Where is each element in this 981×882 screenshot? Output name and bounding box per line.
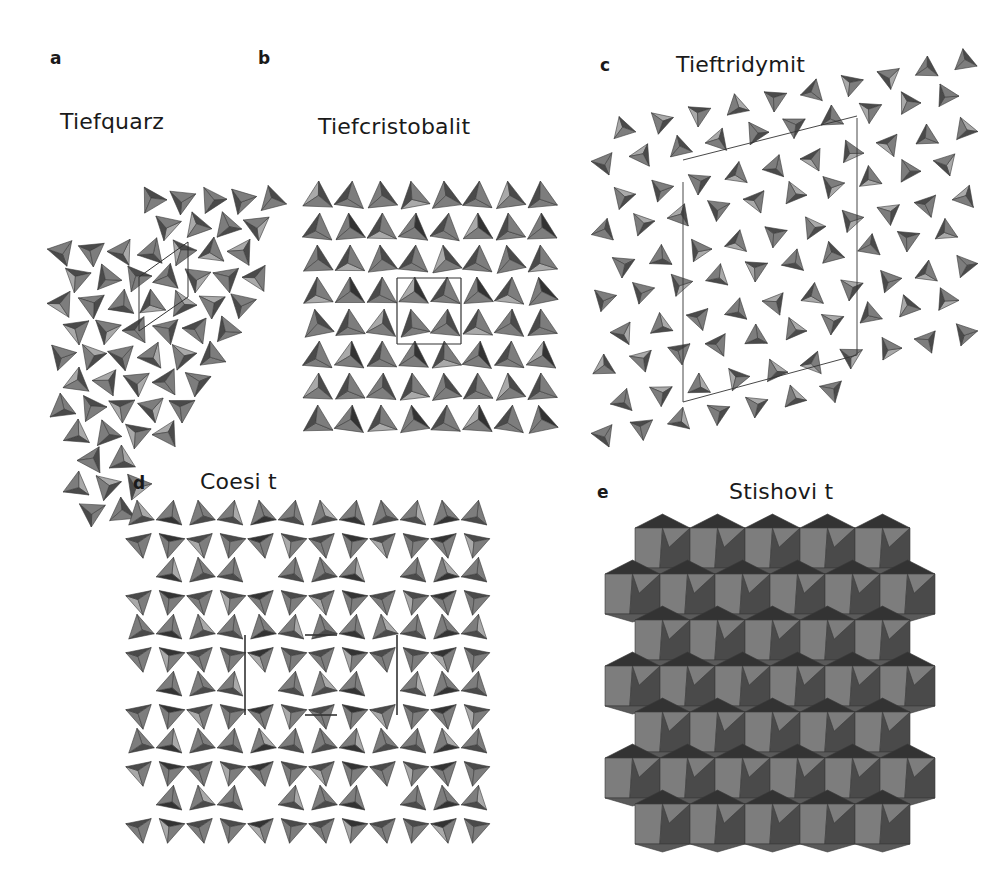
octahedron-face	[605, 574, 633, 614]
octahedron-face	[800, 620, 828, 660]
octahedron-face	[800, 712, 828, 752]
octahedron-face	[690, 528, 718, 568]
octahedron-face	[745, 620, 773, 660]
octahedron-face	[800, 804, 828, 844]
octahedron-face	[690, 514, 745, 528]
octahedron-face	[855, 514, 910, 528]
octahedron-face	[855, 844, 910, 852]
octahedron-face	[855, 712, 883, 752]
octahedron-face	[855, 620, 883, 660]
octahedron-face	[690, 620, 718, 660]
octahedron-face	[745, 804, 773, 844]
octahedron-face	[745, 844, 800, 852]
octahedron-face	[635, 620, 663, 660]
octahedron-face	[605, 758, 633, 798]
octahedron-face	[690, 804, 718, 844]
octahedron-face	[745, 514, 800, 528]
octahedron-face	[745, 712, 773, 752]
octahedron-face	[690, 844, 745, 852]
octahedron-face	[635, 712, 663, 752]
octahedron-face	[635, 844, 690, 852]
octahedron-face	[635, 528, 663, 568]
octahedron-face	[855, 528, 883, 568]
stishovit-structure-diagram	[0, 0, 981, 882]
octahedron-face	[635, 804, 663, 844]
octahedron-face	[745, 528, 773, 568]
octahedron-face	[635, 514, 690, 528]
octahedron-face	[800, 528, 828, 568]
octahedron-face	[690, 712, 718, 752]
octahedron-face	[800, 844, 855, 852]
octahedron-face	[605, 666, 633, 706]
octahedron-face	[800, 514, 855, 528]
octahedron-face	[855, 804, 883, 844]
